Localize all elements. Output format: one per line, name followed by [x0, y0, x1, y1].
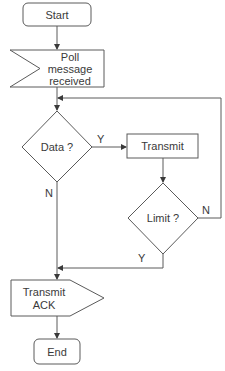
flowchart: Start Poll message received Data ? Y Tra… — [0, 0, 225, 371]
transmit-label: Transmit — [141, 140, 183, 152]
data-yes-label: Y — [97, 133, 105, 145]
ack-node: Transmit ACK — [11, 280, 104, 316]
poll-label-line2: message — [48, 63, 93, 75]
poll-node: Poll message received — [10, 50, 104, 87]
start-label: Start — [45, 9, 68, 21]
start-node: Start — [23, 3, 91, 26]
poll-label-line1: Poll — [61, 51, 79, 63]
ack-label-line1: Transmit — [23, 286, 65, 298]
data-label: Data ? — [41, 141, 73, 153]
limit-yes-label: Y — [138, 252, 146, 264]
limit-no-label: N — [202, 204, 210, 216]
end-node: End — [34, 339, 80, 364]
ack-label-line2: ACK — [33, 299, 56, 311]
arrow-limit-yes — [58, 254, 163, 268]
data-decision: Data ? — [22, 111, 92, 182]
transmit-node: Transmit — [127, 134, 198, 158]
poll-label-line3: received — [49, 75, 91, 87]
limit-decision: Limit ? — [128, 183, 198, 254]
limit-label: Limit ? — [147, 212, 179, 224]
data-no-label: N — [45, 187, 53, 199]
end-label: End — [47, 346, 67, 358]
